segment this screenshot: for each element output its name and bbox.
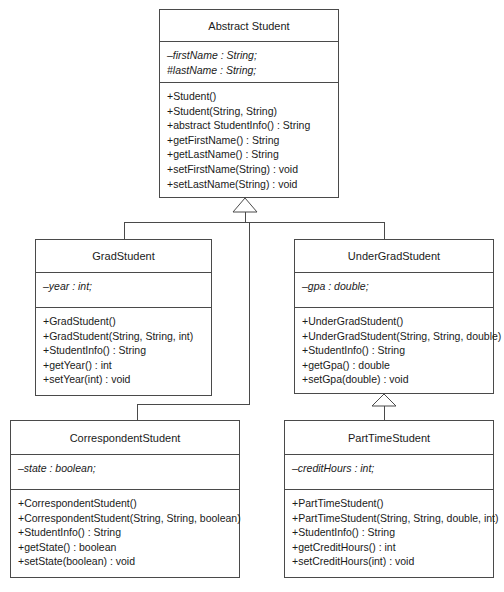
attribute-row: –creditHours : int;: [292, 461, 486, 476]
connector-drop-grad-student: [124, 222, 125, 240]
class-attributes-part-time-student: –creditHours : int;: [285, 455, 493, 490]
method-row: +getFirstName() : String: [167, 133, 331, 148]
class-methods-under-grad-student: +UnderGradStudent() +UnderGradStudent(St…: [295, 308, 493, 393]
method-row: +GradStudent(String, String, int): [43, 329, 204, 344]
method-row: +Student(String, String): [167, 104, 331, 119]
method-row: +setLastName(String) : void: [167, 177, 331, 192]
class-title-correspondent-student: CorrespondentStudent: [11, 421, 239, 455]
method-row: +PartTimeStudent(String, String, double,…: [292, 511, 486, 526]
class-box-grad-student[interactable]: GradStudent –year : int; +GradStudent() …: [35, 239, 212, 396]
method-row: +PartTimeStudent(): [292, 496, 486, 511]
uml-diagram-canvas: Abstract Student –firstName : String; #l…: [0, 0, 504, 592]
class-methods-correspondent-student: +CorrespondentStudent() +CorrespondentSt…: [11, 490, 239, 577]
class-title-under-grad-student: UnderGradStudent: [295, 240, 493, 273]
class-title-abstract-student: Abstract Student: [160, 10, 338, 42]
class-box-part-time-student[interactable]: PartTimeStudent –creditHours : int; +Par…: [284, 420, 494, 578]
method-row: +UnderGradStudent(String, String, double…: [302, 329, 486, 344]
method-row: +getCreditHours() : int: [292, 540, 486, 555]
class-methods-grad-student: +GradStudent() +GradStudent(String, Stri…: [36, 308, 211, 395]
attribute-row: –gpa : double;: [302, 279, 486, 294]
method-row: +getState() : boolean: [18, 540, 232, 555]
method-row: +setState(boolean) : void: [18, 554, 232, 569]
connector-drop-correspondent-student: [137, 404, 138, 421]
class-box-under-grad-student[interactable]: UnderGradStudent –gpa : double; +UnderGr…: [294, 239, 494, 394]
method-row: +CorrespondentStudent(): [18, 496, 232, 511]
class-methods-abstract-student: +Student() +Student(String, String) +abs…: [160, 83, 338, 197]
class-title-grad-student: GradStudent: [36, 240, 211, 273]
method-row: +setYear(int) : void: [43, 372, 204, 387]
connector-vertical-correspondent-student: [249, 222, 250, 405]
generalization-arrowhead-to-under-grad-student: [371, 393, 397, 407]
class-box-abstract-student[interactable]: Abstract Student –firstName : String; #l…: [159, 9, 339, 198]
class-attributes-correspondent-student: –state : boolean;: [11, 455, 239, 490]
class-attributes-under-grad-student: –gpa : double;: [295, 273, 493, 308]
method-row: +StudentInfo() : String: [302, 343, 486, 358]
method-row: +Student(): [167, 89, 331, 104]
method-row: +getLastName() : String: [167, 147, 331, 162]
attribute-row: –firstName : String;: [167, 48, 331, 63]
connector-stem-part-time-student: [384, 405, 385, 421]
connector-fork-bar: [124, 222, 385, 223]
class-box-correspondent-student[interactable]: CorrespondentStudent –state : boolean; +…: [10, 420, 240, 578]
method-row: +getGpa() : double: [302, 358, 486, 373]
method-row: +getYear() : int: [43, 358, 204, 373]
method-row: +CorrespondentStudent(String, String, bo…: [18, 511, 232, 526]
method-row: +StudentInfo() : String: [292, 525, 486, 540]
method-row: +StudentInfo() : String: [43, 343, 204, 358]
method-row: +StudentInfo() : String: [18, 525, 232, 540]
method-row: +setFirstName(String) : void: [167, 162, 331, 177]
class-title-part-time-student: PartTimeStudent: [285, 421, 493, 455]
method-row: +UnderGradStudent(): [302, 314, 486, 329]
attribute-row: –state : boolean;: [18, 461, 232, 476]
class-attributes-grad-student: –year : int;: [36, 273, 211, 308]
connector-jog-correspondent-student: [137, 404, 250, 405]
class-methods-part-time-student: +PartTimeStudent() +PartTimeStudent(Stri…: [285, 490, 493, 577]
generalization-arrowhead-to-abstract-student: [232, 197, 258, 213]
attribute-row: #lastName : String;: [167, 63, 331, 78]
method-row: +GradStudent(): [43, 314, 204, 329]
method-row: +abstract StudentInfo() : String: [167, 118, 331, 133]
connector-drop-under-grad-student: [384, 222, 385, 240]
method-row: +setCreditHours(int) : void: [292, 554, 486, 569]
method-row: +setGpa(double) : void: [302, 372, 486, 387]
attribute-row: –year : int;: [43, 279, 204, 294]
class-attributes-abstract-student: –firstName : String; #lastName : String;: [160, 42, 338, 83]
